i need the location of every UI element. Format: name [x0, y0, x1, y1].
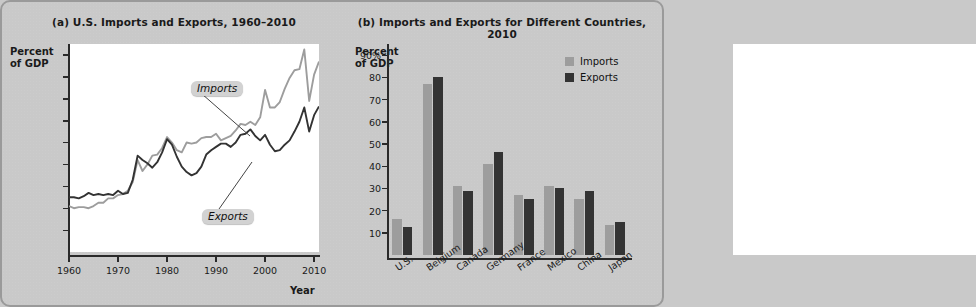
panel-b-bar-canada-exports	[463, 191, 473, 255]
panel-b-legend-swatch-imports	[565, 57, 574, 66]
panel-b-y-tick-label: 80	[341, 72, 381, 83]
panel-a-x-axis-title: Year	[290, 285, 315, 296]
panel-b-y-tickmark	[382, 77, 388, 78]
panel-b-bar-germany-imports	[483, 164, 493, 255]
panel-b-y-tickmark	[382, 188, 388, 189]
panel-b-y-tickmark	[382, 121, 388, 122]
panel-b-title: (b) Imports and Exports for Different Co…	[347, 16, 657, 40]
panel-b-bar-us-exports	[403, 227, 413, 255]
panel-a-x-tickmark	[264, 256, 265, 262]
panel-b-bar-mexico-exports	[555, 188, 565, 255]
panel-a-callout-imports: Imports	[191, 81, 243, 96]
panel-b-y-tickmark	[382, 99, 388, 100]
panel-b-legend-item-exports: Exports	[565, 72, 618, 83]
panel-a-y-axis-title: Percent of GDP	[10, 46, 54, 69]
panel-b-bar-chart: (b) Imports and Exports for Different Co…	[347, 2, 666, 307]
panel-b-legend: ImportsExports	[565, 56, 618, 88]
panel-a-x-axis-line	[68, 255, 320, 257]
panel-b-y-tick-label: 10	[341, 227, 381, 238]
panel-a-x-tickmark	[166, 256, 167, 262]
panel-b-category-label: U.S.	[393, 253, 415, 273]
panel-a-x-tickmark	[313, 256, 314, 262]
panel-b-bar-mexico-imports	[544, 186, 554, 255]
panel-b-y-tick-label: 60	[341, 116, 381, 127]
panel-b-plot-area	[733, 44, 976, 255]
panel-a-x-tick-label: 2010	[284, 265, 344, 276]
panel-b-y-tick-label: 20	[341, 205, 381, 216]
panel-b-y-tick-label: 50	[341, 138, 381, 149]
panel-b-legend-label: Exports	[580, 72, 618, 83]
panel-b-y-tickmark	[382, 55, 388, 56]
panel-a-callout-exports: Exports	[202, 209, 254, 224]
panel-b-bar-japan-imports	[605, 225, 615, 255]
panel-a-line-chart: (a) U.S. Imports and Exports, 1960–2010 …	[2, 2, 347, 307]
panel-a-x-tickmark	[215, 256, 216, 262]
panel-b-y-tick-label: 70	[341, 94, 381, 105]
panel-b-legend-label: Imports	[580, 56, 618, 67]
panel-b-y-tick-label: 90%	[341, 50, 381, 61]
panel-b-bar-china-exports	[585, 191, 595, 255]
panel-a-x-tickmark	[68, 256, 69, 262]
panel-b-y-tickmark	[382, 210, 388, 211]
panel-b-y-tickmark	[382, 166, 388, 167]
panel-a-title: (a) U.S. Imports and Exports, 1960–2010	[24, 16, 324, 28]
panel-b-y-tickmark	[382, 143, 388, 144]
panel-b-legend-item-imports: Imports	[565, 56, 618, 67]
panel-b-bar-belgium-exports	[433, 77, 443, 255]
panel-b-bar-china-imports	[574, 199, 584, 255]
panel-b-bar-germany-exports	[494, 152, 504, 255]
panel-a-leader-lines	[69, 44, 319, 252]
panel-b-legend-swatch-exports	[565, 73, 574, 82]
panel-b-y-tick-label: 30	[341, 183, 381, 194]
panel-b-bar-us-imports	[392, 219, 402, 255]
panel-b-bar-belgium-imports	[423, 84, 433, 255]
panel-b-bar-japan-exports	[615, 222, 625, 255]
panel-b-y-tick-label: 40	[341, 161, 381, 172]
panel-a-x-tickmark	[117, 256, 118, 262]
panel-b-y-tickmark	[382, 232, 388, 233]
